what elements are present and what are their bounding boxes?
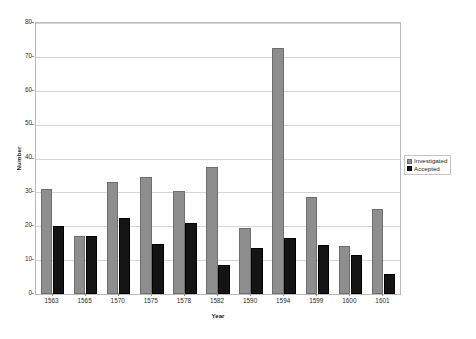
x-axis-tick-label-1599: 1599 <box>302 298 330 304</box>
bar-group <box>102 23 135 294</box>
y-axis-tick-label: 50 <box>10 120 32 126</box>
y-axis-tick-mark <box>31 259 34 260</box>
x-axis-tick-label-1575: 1575 <box>137 298 165 304</box>
bar-accepted-1599 <box>318 245 330 294</box>
bar-accepted-1590 <box>251 248 263 294</box>
x-axis-tick-mark <box>250 293 251 296</box>
y-axis-tick-mark <box>31 225 34 226</box>
legend-swatch-investigated-icon <box>407 159 412 164</box>
bar-accepted-1594 <box>284 238 296 294</box>
bar-investigated-1570 <box>107 182 119 294</box>
bar-accepted-1575 <box>152 244 164 294</box>
bar-accepted-1563 <box>53 226 65 294</box>
y-axis-tick-mark <box>31 124 34 125</box>
y-axis-tick-label: 40 <box>10 154 32 160</box>
y-axis-tick-label: 70 <box>10 53 32 59</box>
x-axis-tick-mark <box>52 293 53 296</box>
x-axis-tick-mark <box>283 293 284 296</box>
legend-item-investigated: Investigated <box>407 158 447 164</box>
x-axis-tick-mark <box>349 293 350 296</box>
bar-accepted-1600 <box>351 255 363 294</box>
x-axis-title: Year <box>35 312 401 319</box>
bar-investigated-1600 <box>339 246 351 294</box>
plot-area <box>35 22 401 295</box>
x-axis-tick-label-1565: 1565 <box>71 298 99 304</box>
bar-group <box>367 23 400 294</box>
y-axis-tick-label: 20 <box>10 222 32 228</box>
y-axis-tick-label: 60 <box>10 87 32 93</box>
bar-group <box>201 23 234 294</box>
bar-accepted-1582 <box>218 265 230 294</box>
bar-group <box>135 23 168 294</box>
y-axis-tick-label: 80 <box>10 19 32 25</box>
bar-accepted-1601 <box>384 274 396 294</box>
legend-swatch-accepted-icon <box>407 166 412 171</box>
bar-investigated-1578 <box>173 191 185 294</box>
bar-accepted-1570 <box>119 218 131 294</box>
bar-investigated-1563 <box>41 189 53 294</box>
y-axis-tick-mark <box>31 22 34 23</box>
x-axis-tick-mark <box>316 293 317 296</box>
bar-accepted-1578 <box>185 223 197 294</box>
y-axis-tick-mark <box>31 56 34 57</box>
bar-layer <box>36 23 400 294</box>
y-axis-tick-label: 0 <box>10 290 32 296</box>
legend-label-investigated: Investigated <box>414 158 447 164</box>
x-axis-tick-label-1600: 1600 <box>335 298 363 304</box>
y-axis-tick-mark <box>31 191 34 192</box>
bar-group <box>36 23 69 294</box>
x-axis-tick-mark <box>118 293 119 296</box>
x-axis-tick-mark <box>217 293 218 296</box>
bar-investigated-1565 <box>74 236 86 294</box>
x-axis-tick-mark <box>151 293 152 296</box>
legend-label-accepted: Accepted <box>414 166 440 172</box>
bar-investigated-1594 <box>272 48 284 294</box>
bar-group <box>301 23 334 294</box>
bar-chart: Number 01020304050607080 156315651570157… <box>0 0 476 339</box>
chart-legend: Investigated Accepted <box>404 155 451 175</box>
bar-group <box>69 23 102 294</box>
bar-investigated-1582 <box>206 167 218 294</box>
bar-investigated-1575 <box>140 177 152 294</box>
x-axis-tick-label-1594: 1594 <box>269 298 297 304</box>
x-axis-tick-label-1563: 1563 <box>38 298 66 304</box>
x-axis-tick-mark <box>382 293 383 296</box>
bar-group <box>334 23 367 294</box>
x-axis-tick-mark <box>85 293 86 296</box>
bar-group <box>268 23 301 294</box>
x-axis-tick-label-1590: 1590 <box>236 298 264 304</box>
y-axis-tick-mark <box>31 158 34 159</box>
y-axis-tick-label: 10 <box>10 256 32 262</box>
bar-accepted-1565 <box>86 236 98 294</box>
y-axis-tick-mark <box>31 293 34 294</box>
bar-investigated-1590 <box>239 228 251 294</box>
x-axis-tick-label-1601: 1601 <box>368 298 396 304</box>
x-axis-tick-label-1582: 1582 <box>203 298 231 304</box>
bar-investigated-1599 <box>306 197 318 294</box>
bar-group <box>235 23 268 294</box>
legend-item-accepted: Accepted <box>407 166 447 172</box>
bar-investigated-1601 <box>372 209 384 294</box>
y-axis-tick-label: 30 <box>10 188 32 194</box>
x-axis-tick-label-1578: 1578 <box>170 298 198 304</box>
y-axis-tick-labels: 01020304050607080 <box>8 0 32 339</box>
x-axis-tick-mark <box>184 293 185 296</box>
x-axis-tick-label-1570: 1570 <box>104 298 132 304</box>
x-axis-tick-labels: 1563156515701575157815821590159415991600… <box>35 298 401 312</box>
y-axis-tick-mark <box>31 90 34 91</box>
bar-group <box>168 23 201 294</box>
